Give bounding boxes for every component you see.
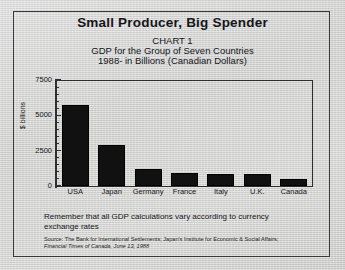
bar-slot xyxy=(62,80,89,186)
bar-slot xyxy=(171,80,198,186)
x-tick-label: France xyxy=(166,188,202,197)
source-line-1: Source: The Bank for International Settl… xyxy=(44,236,300,243)
bar-slot xyxy=(98,80,125,186)
source-line-2: Financial Times of Canada, June 13, 1988 xyxy=(44,243,300,250)
bar-slot xyxy=(207,80,234,186)
y-tick-label: 0 xyxy=(24,181,52,190)
x-axis-tick-labels: USAJapanWestGermanyFranceItalyU.K.Canada xyxy=(57,188,312,210)
y-tick-label: 2500 xyxy=(24,146,52,155)
chart-source: Source: The Bank for International Settl… xyxy=(44,236,300,250)
y-tick-label: 7500 xyxy=(24,75,52,84)
bar-west-germany xyxy=(135,169,162,186)
bar-canada xyxy=(280,179,307,186)
x-tick-label: Japan xyxy=(93,188,129,197)
bar-usa xyxy=(62,105,89,186)
bar-slot xyxy=(280,80,307,186)
chart-page: Small Producer, Big Spender CHART 1 GDP … xyxy=(0,0,345,270)
bar-u-k- xyxy=(244,174,271,186)
chart-note: Remember that all GDP calculations vary … xyxy=(44,212,294,231)
x-tick-label: Italy xyxy=(203,188,239,197)
bar-france xyxy=(171,173,198,186)
x-tick-label: Canada xyxy=(276,188,312,197)
bar-japan xyxy=(98,145,125,186)
x-tick-label: USA xyxy=(57,188,93,197)
bar-slot xyxy=(244,80,271,186)
bar-series xyxy=(57,80,312,186)
bar-slot xyxy=(135,80,162,186)
y-tick-label: 5000 xyxy=(24,110,52,119)
x-tick-label: U.K. xyxy=(239,188,275,197)
bar-italy xyxy=(207,174,234,186)
